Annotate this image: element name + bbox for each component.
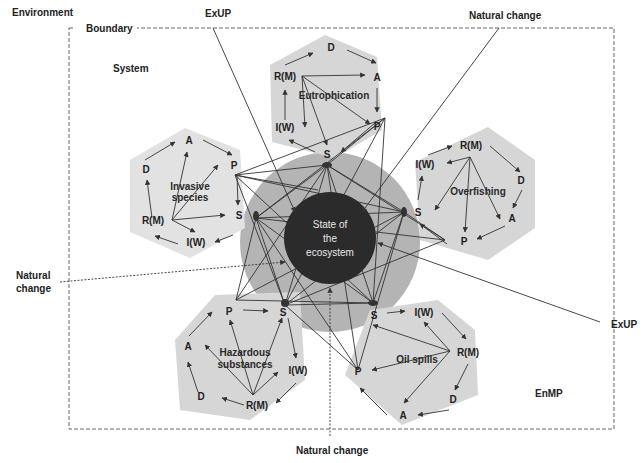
hazardous-RM: R(M) xyxy=(246,400,268,411)
eutro-IW: I(W) xyxy=(276,122,295,133)
enmp-label: EnMP xyxy=(535,388,563,399)
invasive-A: A xyxy=(185,135,192,146)
hazardous-title-1: Hazardous xyxy=(219,347,271,358)
environment-label: Environment xyxy=(12,7,74,18)
invasive-title-2: species xyxy=(172,192,209,203)
center-line-2: the xyxy=(323,233,337,244)
hazardous-IW: I(W) xyxy=(289,365,308,376)
hazardous-A: A xyxy=(184,341,191,352)
boundary-label: Boundary xyxy=(86,23,133,34)
eutro-title: Eutrophication xyxy=(299,90,370,101)
oilspills-D: D xyxy=(449,394,456,405)
invasive-title-1: Invasive xyxy=(170,181,210,192)
oilspills-IW: I(W) xyxy=(415,307,434,318)
eutro-P: P xyxy=(374,121,381,132)
invasive-P: P xyxy=(231,160,238,171)
oilspills-P: P xyxy=(355,366,362,377)
invasive-IW: I(W) xyxy=(187,237,206,248)
overfishing-RM: R(M) xyxy=(460,140,482,151)
oilspills-RM: R(M) xyxy=(457,347,479,358)
center-line-1: State of xyxy=(313,219,348,230)
exup-right-label: ExUP xyxy=(611,319,637,330)
oilspills-A: A xyxy=(399,410,406,421)
overfishing-title: Overfishing xyxy=(450,186,506,197)
overfishing-IW: I(W) xyxy=(416,159,435,170)
overfishing-S: S xyxy=(415,207,422,218)
natural-change-bottom-label: Natural change xyxy=(296,445,369,456)
eutro-S: S xyxy=(324,149,331,160)
hazardous-D: D xyxy=(197,391,204,402)
eutro-RM: R(M) xyxy=(274,71,296,82)
hazardous-title-2: substances xyxy=(217,359,272,370)
hazardous-P: P xyxy=(226,306,233,317)
invasive-RM: R(M) xyxy=(142,215,164,226)
dapsiwrm-diagram: State of the ecosystem D A P S I(W) R(M)… xyxy=(0,0,644,463)
exup-top-label: ExUP xyxy=(205,8,231,19)
oilspills-S: S xyxy=(371,310,378,321)
system-label: System xyxy=(113,63,149,74)
eutro-A: A xyxy=(373,72,380,83)
natural-change-top-label: Natural change xyxy=(469,10,542,21)
natural-change-left-label-1: Natural xyxy=(16,270,51,281)
overfishing-P: P xyxy=(461,236,468,247)
overfishing-D: D xyxy=(517,175,524,186)
invasive-S: S xyxy=(236,210,243,221)
hazardous-S: S xyxy=(280,307,287,318)
oilspills-title: Oil spills xyxy=(396,354,438,365)
eutro-D: D xyxy=(327,42,334,53)
center-line-3: ecosystem xyxy=(306,247,354,258)
invasive-D: D xyxy=(142,164,149,175)
natural-change-left-label-2: change xyxy=(16,283,51,294)
overfishing-A: A xyxy=(508,213,515,224)
